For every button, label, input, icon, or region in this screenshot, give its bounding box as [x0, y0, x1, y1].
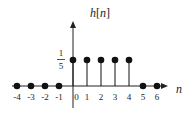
- x-tick-labels: -4-3-2-10123456: [13, 92, 160, 102]
- stem-marker: [126, 57, 133, 64]
- stem-marker: [140, 83, 147, 90]
- x-tick-label: 6: [155, 92, 160, 102]
- stem-marker: [56, 83, 63, 90]
- y-tick-numerator: 1: [59, 48, 64, 58]
- x-axis-arrow-icon: [161, 83, 168, 89]
- x-tick-label: -2: [41, 92, 49, 102]
- x-tick-label: 2: [99, 92, 104, 102]
- x-axis-label: n: [176, 82, 182, 96]
- x-tick-label: 4: [127, 92, 132, 102]
- stem-marker: [112, 57, 119, 64]
- x-tick-label: 1: [85, 92, 90, 102]
- stem-marker: [98, 57, 105, 64]
- stem-marker: [42, 83, 49, 90]
- stem-marker: [84, 57, 91, 64]
- plot-title: h[n]: [90, 6, 110, 20]
- x-tick-label: 3: [113, 92, 118, 102]
- stem-marker: [28, 83, 35, 90]
- y-axis-arrow-icon: [70, 21, 76, 28]
- stem-marker: [70, 57, 77, 64]
- x-tick-label: 0: [74, 92, 79, 102]
- stem-plot: -4-3-2-10123456 h[n] n 1 5: [0, 0, 191, 116]
- x-tick-label: -4: [13, 92, 21, 102]
- stems: [14, 57, 161, 90]
- x-tick-label: 5: [141, 92, 146, 102]
- stem-marker: [14, 83, 21, 90]
- stem-marker: [154, 83, 161, 90]
- y-tick-denominator: 5: [59, 61, 64, 71]
- x-tick-label: -1: [55, 92, 63, 102]
- x-tick-label: -3: [27, 92, 35, 102]
